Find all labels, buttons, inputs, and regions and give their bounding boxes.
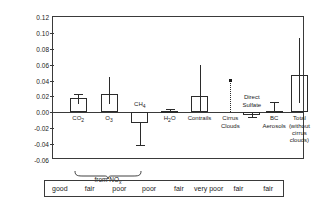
data-quality-cell: very poor bbox=[194, 185, 224, 192]
series-label-direct-sulfate-line: Sulfate bbox=[231, 102, 273, 109]
errorbar-o3 bbox=[109, 77, 110, 105]
square-marker-cirrus-clouds bbox=[229, 79, 232, 82]
bar-ch4 bbox=[131, 112, 148, 122]
data-quality-cell: fair bbox=[164, 185, 194, 192]
errorbar-co2-cap bbox=[74, 94, 83, 95]
series-label-total-line: cirrus bbox=[278, 130, 317, 137]
data-quality-cell: fair bbox=[224, 185, 254, 192]
series-label-total-line: clouds) bbox=[278, 137, 317, 144]
errorbar-total bbox=[299, 38, 300, 103]
series-label-direct-sulfate-line: Direct bbox=[231, 94, 273, 101]
data-quality-cell: poor bbox=[134, 185, 164, 192]
series-label-total-line: (without bbox=[278, 123, 317, 130]
data-quality-cell: good bbox=[45, 185, 75, 192]
series-label-o3-line: O3 bbox=[89, 115, 129, 124]
series-label-direct-sulfate: DirectSulfate bbox=[231, 94, 273, 108]
series-label-cirrus-clouds-line: Clouds bbox=[210, 123, 250, 130]
series-label-cirrus-clouds: CirrusClouds bbox=[210, 115, 250, 129]
plot-area: CO2O3CH4H2OContrailsCirrusCloudsDirectSu… bbox=[53, 17, 303, 158]
series-label-o3: O3 bbox=[89, 115, 129, 124]
errorbar-ch4-cap bbox=[136, 145, 145, 146]
errorbar-co2 bbox=[78, 94, 79, 104]
series-label-total-line: Total bbox=[278, 115, 317, 122]
radiative-forcing-figure: Radiative Forcing (Wm-2) CO2O3CH4H2OCont… bbox=[0, 0, 317, 208]
y-tick-mark bbox=[50, 33, 54, 34]
data-quality-row: goodfairpoorpoorfairvery poorfairfair bbox=[44, 180, 284, 197]
y-tick-mark bbox=[50, 144, 54, 145]
y-tick-mark bbox=[50, 49, 54, 50]
y-tick-label: -0.06 bbox=[31, 157, 53, 164]
y-tick-mark bbox=[50, 81, 54, 82]
data-quality-cell: fair bbox=[75, 185, 105, 192]
y-tick-mark bbox=[50, 96, 54, 97]
y-tick-mark bbox=[50, 65, 54, 66]
series-label-ch4: CH4 bbox=[120, 101, 160, 110]
series-label-ch4-line: CH4 bbox=[120, 101, 160, 110]
series-label-cirrus-clouds-line: Cirrus bbox=[210, 115, 250, 122]
errorbar-h2o-cap bbox=[166, 109, 175, 110]
y-tick-mark bbox=[50, 128, 54, 129]
series-label-total: Total(withoutcirrusclouds) bbox=[278, 115, 317, 144]
y-tick-mark bbox=[50, 112, 54, 113]
errorbar-contrails bbox=[200, 65, 201, 113]
data-quality-cell: fair bbox=[253, 185, 283, 192]
data-quality-cell: poor bbox=[105, 185, 135, 192]
plot-frame: CO2O3CH4H2OContrailsCirrusCloudsDirectSu… bbox=[52, 16, 304, 159]
y-tick-label: 0.12 bbox=[31, 14, 53, 21]
errorbar-bc-aerosols bbox=[274, 102, 275, 113]
errorbar-ch4 bbox=[140, 123, 141, 145]
errorbar-bc-aerosols-cap bbox=[270, 102, 279, 103]
